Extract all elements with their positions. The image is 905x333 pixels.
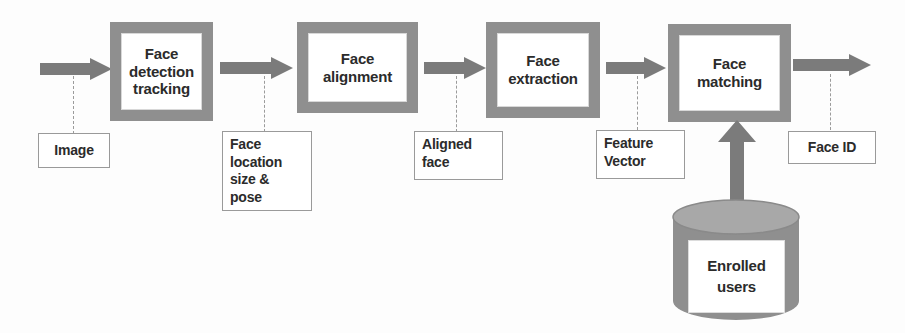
stage-face-extraction-panel: Face extraction	[497, 33, 589, 107]
flowchart-diagram: Image Face detection tracking Face locat…	[0, 0, 905, 333]
stage-face-extraction: Face extraction	[486, 22, 600, 118]
arrow-input-to-detection	[40, 58, 112, 80]
stage-face-detection-tracking-panel: Face detection tracking	[121, 33, 202, 110]
datastore-enrolled-users-panel: Enrolled users	[688, 240, 785, 313]
stage-face-alignment: Face alignment	[297, 22, 418, 113]
note-feature-vector: Feature Vector	[596, 130, 685, 179]
stage-face-alignment-label: Face alignment	[323, 50, 392, 85]
note-face-id: Face ID	[788, 131, 876, 164]
note-image: Image	[38, 133, 110, 168]
leader-line-image	[73, 76, 74, 134]
stage-face-matching-panel: Face matching	[679, 35, 780, 111]
datastore-enrolled-users-label: Enrolled users	[707, 256, 765, 297]
stage-face-matching-label: Face matching	[697, 55, 762, 90]
stage-face-extraction-label: Face extraction	[508, 52, 578, 87]
note-face-location-size-pose-label: Face location size & pose	[223, 132, 289, 210]
arrow-matching-to-output	[793, 54, 871, 76]
stage-face-matching: Face matching	[668, 24, 791, 122]
stage-face-alignment-panel: Face alignment	[308, 33, 407, 102]
datastore-enrolled-users: Enrolled users	[670, 199, 802, 322]
leader-line-aligned-face	[456, 76, 457, 132]
arrow-extraction-to-matching	[606, 57, 666, 79]
note-face-location-size-pose: Face location size & pose	[222, 131, 312, 211]
stage-face-detection-tracking-label: Face detection tracking	[129, 45, 194, 98]
stage-face-detection-tracking: Face detection tracking	[110, 22, 213, 121]
arrow-alignment-to-extraction	[424, 57, 486, 79]
note-face-id-label: Face ID	[802, 139, 862, 157]
leader-line-face-id	[830, 74, 831, 130]
leader-line-feature-vector	[637, 76, 638, 130]
arrow-detection-to-alignment	[220, 57, 293, 79]
leader-line-face-location	[264, 76, 265, 132]
note-aligned-face: Aligned face	[414, 131, 503, 180]
note-aligned-face-label: Aligned face	[415, 132, 479, 175]
note-image-label: Image	[48, 142, 99, 160]
note-feature-vector-label: Feature Vector	[597, 131, 660, 174]
